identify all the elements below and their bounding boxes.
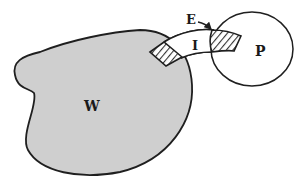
label-i: I [192,38,198,53]
diagram-canvas: E I P W [0,0,305,186]
label-p: P [255,43,266,59]
label-e: E [186,12,196,27]
hatched-patch-e [210,30,241,52]
label-w: W [83,98,100,114]
e-pointer-arrow [198,22,211,29]
